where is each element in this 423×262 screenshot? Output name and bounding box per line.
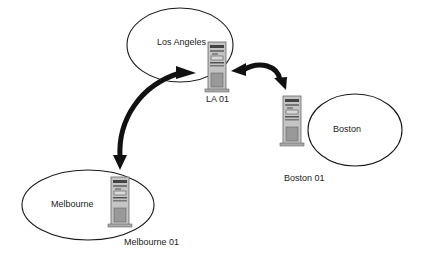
server-icon-boston-01 [280, 96, 304, 146]
server-label-la-01: LA 01 [206, 94, 229, 104]
site-label-boston: Boston [333, 124, 361, 134]
site-label-melbourne: Melbourne [51, 199, 94, 209]
server-label-melbourne-01: Melbourne 01 [124, 237, 179, 247]
site-label-los-angeles: Los Angeles [157, 37, 206, 47]
server-label-boston-01: Boston 01 [284, 173, 325, 183]
server-icon-melbourne-01 [108, 177, 132, 227]
link-arrow-la-boston [231, 63, 287, 90]
server-icon-la-01 [205, 42, 229, 92]
